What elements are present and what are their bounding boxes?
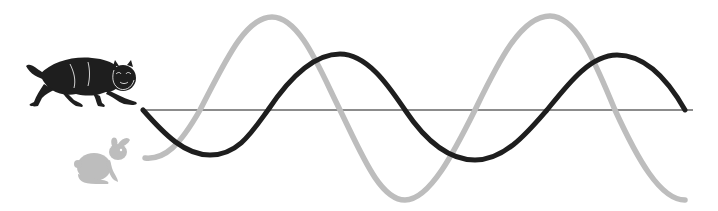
predator-population-curve [143, 54, 685, 160]
rabbit-icon [74, 137, 130, 184]
rabbit-eye [120, 149, 122, 151]
predator-prey-diagram [0, 0, 718, 211]
prey-population-curve [145, 16, 685, 200]
